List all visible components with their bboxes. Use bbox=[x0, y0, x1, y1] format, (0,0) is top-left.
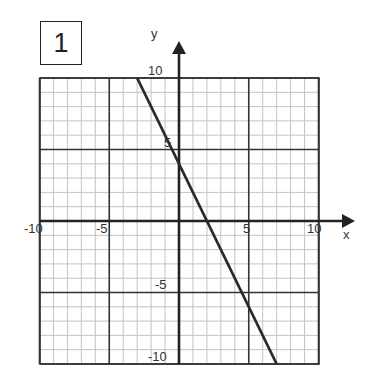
y-axis-arrow-icon bbox=[172, 41, 186, 54]
coordinate-plane: y x -10 -5 5 10 10 5 -5 -10 bbox=[0, 0, 365, 372]
x-tick-10: 10 bbox=[307, 221, 321, 236]
x-axis-label: x bbox=[343, 227, 350, 242]
y-tick-5: 5 bbox=[164, 135, 171, 150]
y-tick-10: 10 bbox=[148, 63, 162, 78]
y-tick-minus10: -10 bbox=[148, 349, 167, 364]
y-tick-minus5: -5 bbox=[155, 277, 167, 292]
y-axis-label: y bbox=[151, 26, 158, 41]
x-tick-5: 5 bbox=[243, 221, 250, 236]
x-tick-minus10: -10 bbox=[24, 221, 43, 236]
x-axis-arrow-icon bbox=[342, 214, 355, 228]
x-tick-minus5: -5 bbox=[96, 221, 108, 236]
